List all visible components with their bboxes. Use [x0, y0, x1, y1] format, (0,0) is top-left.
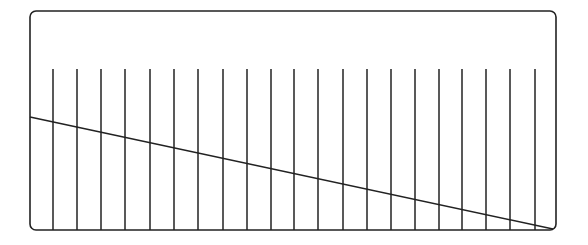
diagonal-line: [30, 117, 553, 229]
vertical-lines-group: [53, 69, 535, 230]
diagram-canvas: [0, 0, 588, 245]
rounded-frame: [30, 11, 556, 230]
